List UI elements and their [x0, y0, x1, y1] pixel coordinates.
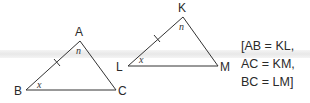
vertex-label-m: M: [220, 60, 230, 74]
triangle-abc: A B C n x: [14, 25, 127, 98]
vertex-label-c: C: [118, 84, 127, 98]
equality-ab-kl: [AB = KL,: [241, 37, 295, 55]
vertex-label-k: K: [178, 1, 186, 15]
angle-label-k: n: [179, 21, 184, 32]
vertex-label-a: A: [75, 25, 83, 39]
angle-label-b: x: [36, 79, 42, 90]
angle-label-a: n: [76, 45, 81, 56]
vertex-label-b: B: [14, 84, 22, 98]
equality-bc-lm: BC = LM]: [241, 73, 295, 91]
congruence-statement: [AB = KL, AC = KM, BC = LM]: [241, 37, 295, 91]
equality-ac-km: AC = KM,: [241, 55, 295, 73]
vertex-label-l: L: [116, 60, 123, 74]
angle-label-l: x: [138, 54, 144, 65]
triangle-klm: K L M n x: [116, 1, 230, 74]
congruent-triangles-diagram: A B C n x K L M n x [AB = KL, AC = KM, B…: [0, 0, 310, 103]
